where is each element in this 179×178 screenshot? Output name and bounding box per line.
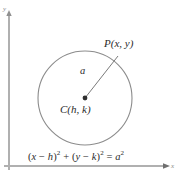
eq-equals: =: [104, 151, 115, 162]
eq-minus-1: −: [36, 151, 47, 162]
eq-plus: +: [60, 151, 71, 162]
radius-label: a: [80, 66, 85, 77]
center-label: C(h, k): [60, 104, 91, 115]
center-point-dot: [83, 96, 88, 101]
y-axis-label: y: [3, 6, 6, 13]
radius-segment: [85, 56, 118, 98]
eq-exponent-3: 2: [121, 149, 125, 157]
x-axis-label: x: [171, 163, 174, 170]
circle-equation-figure: y x P(x, y) a C(h, k) (x − h)2 + (y − k)…: [0, 0, 179, 178]
x-axis-arrow-icon: [163, 163, 170, 169]
point-p-label: P(x, y): [104, 38, 133, 49]
circle-equation: (x − h)2 + (y − k)2 = a2: [28, 150, 124, 162]
y-axis-arrow-icon: [6, 10, 11, 16]
eq-minus-2: −: [80, 151, 91, 162]
